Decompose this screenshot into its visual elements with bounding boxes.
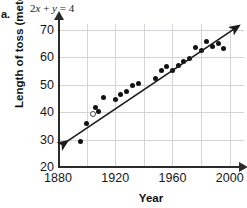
data-point — [181, 59, 186, 64]
y-tick-label: 30 — [8, 134, 54, 147]
data-point — [204, 39, 209, 44]
data-point — [78, 139, 83, 144]
gridline-horizontal — [58, 30, 244, 31]
data-point — [210, 44, 215, 49]
data-point — [96, 109, 101, 114]
data-point — [90, 111, 96, 117]
data-point — [101, 95, 106, 100]
y-axis-line — [58, 18, 60, 168]
data-point — [176, 63, 181, 68]
data-point — [170, 68, 175, 73]
y-tick-label: 40 — [8, 106, 54, 119]
equation-right-side: 4 — [69, 2, 75, 14]
data-point — [84, 121, 89, 126]
data-point — [187, 56, 192, 61]
gridline-horizontal — [58, 57, 244, 58]
x-axis-line — [58, 166, 240, 168]
x-axis-title: Year — [58, 192, 244, 204]
gridline-horizontal — [58, 140, 244, 141]
y-tick-label: 60 — [8, 51, 54, 64]
data-point — [216, 41, 221, 46]
data-point — [124, 89, 129, 94]
gridline-vertical — [201, 24, 202, 167]
x-tick-label: 2000 — [206, 172, 247, 185]
plot-area — [58, 24, 244, 167]
data-point — [130, 83, 135, 88]
data-point — [164, 64, 169, 69]
y-tick-label: 70 — [8, 24, 54, 37]
data-point — [199, 48, 204, 53]
figure-root: a. 2x + y = 4 Length of toss (meters) Ye… — [0, 0, 247, 208]
y-axis-arrow-icon — [54, 11, 64, 20]
gridline-vertical — [115, 24, 116, 167]
data-point — [193, 45, 198, 50]
x-tick-label: 1920 — [91, 172, 139, 185]
data-point — [136, 81, 141, 86]
data-point — [221, 46, 226, 51]
gridline-vertical — [87, 24, 88, 167]
data-point — [153, 76, 158, 81]
data-point — [159, 68, 164, 73]
x-tick-label: 1960 — [148, 172, 196, 185]
gridline-vertical — [230, 24, 231, 167]
gridline-horizontal — [58, 85, 244, 86]
y-tick-label: 50 — [8, 79, 54, 92]
gridline-vertical — [144, 24, 145, 167]
data-point — [113, 97, 118, 102]
x-tick-label: 1880 — [34, 172, 82, 185]
gridline-horizontal — [58, 112, 244, 113]
gridline-vertical — [172, 24, 173, 167]
data-point — [118, 92, 123, 97]
